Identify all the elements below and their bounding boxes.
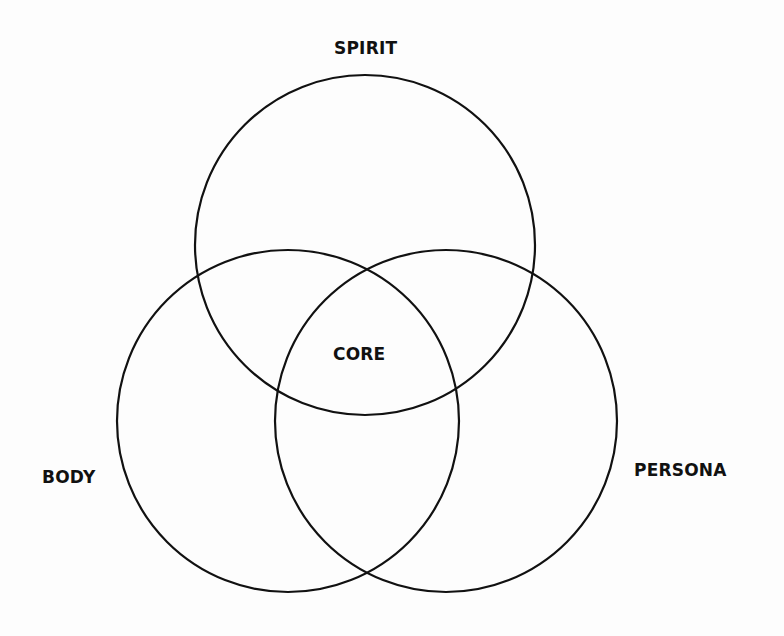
venn-diagram: SPIRIT CORE BODY PERSONA xyxy=(0,0,784,636)
persona-label: PERSONA xyxy=(634,462,727,479)
spirit-label: SPIRIT xyxy=(334,40,397,57)
body-circle xyxy=(117,250,459,592)
body-label: BODY xyxy=(42,469,95,486)
spirit-circle xyxy=(195,75,535,415)
core-label: CORE xyxy=(333,346,385,363)
venn-circles xyxy=(0,0,784,636)
persona-circle xyxy=(275,250,617,592)
